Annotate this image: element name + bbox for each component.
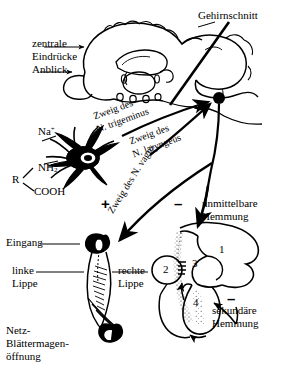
label-amine-group: NH2: [38, 162, 57, 175]
label-netz-blaettermagen-line1: Netz-: [6, 325, 30, 337]
label-compartment-3: 3: [192, 258, 198, 270]
label-netz-blaettermagen-line3: öffnung: [6, 351, 41, 363]
label-sodium-ion: Na+: [38, 126, 55, 138]
label-compartment-4: 4: [193, 297, 199, 309]
label-compartment-2: 2: [163, 264, 169, 276]
label-residue-r: R: [12, 174, 19, 186]
label-linke-lippe-line1: linke: [12, 265, 34, 277]
label-linke-lippe-line2: Lippe: [12, 278, 38, 290]
label-rechte-lippe-line1: rechte: [118, 265, 145, 277]
label-anblick: Anblick: [32, 64, 67, 76]
label-unmittelbare-hemmung-line2: Hemmung: [202, 211, 248, 223]
label-carboxyl-group: COOH: [34, 186, 65, 198]
esophageal-groove-drawing: [86, 234, 123, 342]
sign-inhibitory-direct-minus: –: [174, 196, 182, 212]
figure-root: Gehirnschnitt zentrale Eindrücke Anblick…: [0, 0, 281, 375]
label-rechte-lippe-line2: Lippe: [118, 278, 144, 290]
label-netz-blaettermagen-line2: Blättermagen-: [6, 338, 69, 350]
nerve-nucleus-node: [213, 92, 225, 104]
label-gehirnschnitt: Gehirnschnitt: [198, 10, 258, 22]
label-zentrale-eindruecke-line2: Eindrücke: [32, 51, 77, 63]
label-unmittelbare-hemmung-line1: unmittelbare: [202, 198, 258, 210]
sign-excitatory-plus: +: [101, 196, 110, 212]
label-sekundaere-hemmung-line2: Hemmung: [212, 318, 258, 330]
brain-section-drawing: [64, 21, 262, 124]
label-zentrale-eindruecke-line1: zentrale: [32, 38, 67, 50]
label-sekundaere-hemmung-line1: sekundäre: [212, 305, 257, 317]
label-eingang: Eingang: [6, 237, 43, 249]
taste-receptor-cell: [46, 126, 118, 188]
label-compartment-1: 1: [219, 244, 225, 256]
